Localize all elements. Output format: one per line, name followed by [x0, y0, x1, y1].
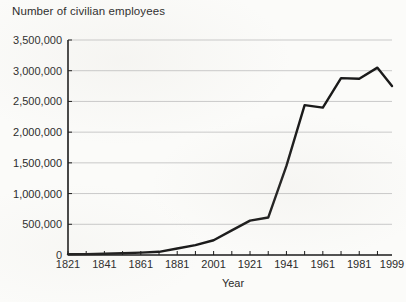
- y-axis-tick-label: 3,500,000: [0, 34, 62, 46]
- x-axis-tick-label: 1981: [347, 258, 371, 270]
- y-axis-tick-label: 1,000,000: [0, 188, 62, 200]
- x-axis-tick-label: 2001: [201, 258, 225, 270]
- y-axis-tick-label: 2,000,000: [0, 126, 62, 138]
- gridlines: [68, 40, 392, 224]
- y-axis-tick-label: 0: [0, 249, 62, 261]
- x-axis-tick-label: 1841: [92, 258, 116, 270]
- x-axis-tick-label: 1921: [238, 258, 262, 270]
- x-axis-tick-label: 1941: [274, 258, 298, 270]
- x-axis-tick-label: 1861: [129, 258, 153, 270]
- chart-screenshot: Number of civilian employees 0500,0001,0…: [0, 0, 406, 302]
- y-axis-tick-label: 2,500,000: [0, 95, 62, 107]
- y-axis-tick-label: 500,000: [0, 218, 62, 230]
- x-axis-tick-label: 1999: [380, 258, 404, 270]
- x-axis-tick-label: 1961: [311, 258, 335, 270]
- y-axis-tick-label: 3,000,000: [0, 65, 62, 77]
- data-series-line: [68, 68, 392, 255]
- x-axis-tick-label: 1821: [56, 258, 80, 270]
- y-axis-tick-label: 1,500,000: [0, 157, 62, 169]
- x-axis-title: Year: [222, 277, 244, 289]
- y-axis-labels: 0500,0001,000,0001,500,0002,000,0002,500…: [0, 0, 62, 302]
- x-axis-tick-label: 1881: [165, 258, 189, 270]
